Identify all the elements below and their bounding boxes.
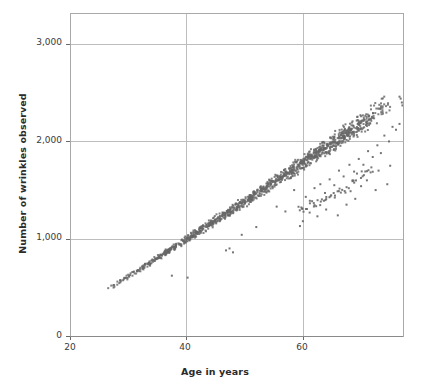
y-tick-label-1000: 1,000 [18,232,62,242]
y-tick-label-0: 0 [18,330,62,340]
y-tick-label-3000: 3,000 [18,37,62,47]
y-tick-label-2000: 2,000 [18,135,62,145]
x-axis-title: Age in years [120,366,310,377]
plot-canvas [0,0,422,392]
x-tick-label-40: 40 [165,342,205,352]
x-tick-label-20: 20 [50,342,90,352]
plot-background [70,13,403,336]
scatter-plot-figure: Number of wrinkles observed Age in years… [0,0,422,392]
x-tick-label-60: 60 [282,342,322,352]
